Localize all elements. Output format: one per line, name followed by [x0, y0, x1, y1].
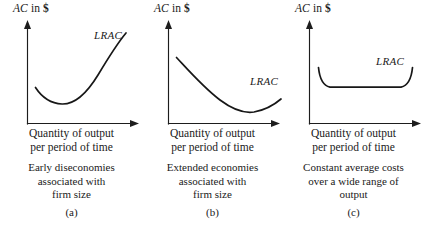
panel-letter-c: (c)	[283, 206, 424, 218]
caption-b-line1: Extended economies	[142, 161, 283, 175]
x-axis-label-b: Quantity of output per period of time	[142, 127, 283, 154]
x-axis-label-a: Quantity of output per period of time	[1, 127, 142, 154]
x-axis-arrowhead-b	[271, 120, 280, 127]
panel-letter-b: (b)	[142, 206, 283, 218]
lrac-label-b: LRAC	[250, 75, 278, 87]
caption-b-line3: firm size	[142, 188, 283, 202]
x-axis-label-b-line2: per period of time	[142, 141, 283, 155]
caption-a-line2: associated with	[1, 175, 142, 189]
caption-c-line1: Constant average costs	[283, 161, 424, 175]
x-axis-label-c-line2: per period of time	[283, 141, 424, 155]
panel-letter-a: (a)	[1, 206, 142, 218]
y-axis-arrowhead-b	[165, 20, 172, 29]
y-axis-arrowhead-c	[306, 20, 313, 29]
lrac-curve-c	[319, 68, 413, 88]
caption-a-line3: firm size	[1, 188, 142, 202]
x-axis-arrowhead-a	[130, 120, 139, 127]
lrac-curve-a	[36, 33, 127, 104]
panel-a: AC in $ LRAC Quantity of output per peri…	[1, 0, 142, 229]
plot-area-a	[1, 0, 142, 132]
caption-b-line2: associated with	[142, 175, 283, 189]
caption-c-line3: output	[283, 188, 424, 202]
lrac-label-a: LRAC	[94, 29, 122, 41]
x-axis-label-c-line1: Quantity of output	[283, 127, 424, 141]
y-axis-arrowhead-a	[24, 20, 31, 29]
x-axis-label-a-line1: Quantity of output	[1, 127, 142, 141]
caption-a: Early diseconomies associated with firm …	[1, 161, 142, 202]
x-axis-label-a-line2: per period of time	[1, 141, 142, 155]
x-axis-label-b-line1: Quantity of output	[142, 127, 283, 141]
x-axis-label-c: Quantity of output per period of time	[283, 127, 424, 154]
panel-b: AC in $ LRAC Quantity of output per peri…	[142, 0, 283, 229]
caption-c-line2: over a wide range of	[283, 175, 424, 189]
caption-b: Extended economies associated with firm …	[142, 161, 283, 202]
lrac-figure: AC in $ LRAC Quantity of output per peri…	[0, 0, 425, 229]
x-axis-arrowhead-c	[412, 120, 421, 127]
plot-area-b	[142, 0, 283, 132]
panel-c: AC in $ LRAC Quantity of output per peri…	[283, 0, 424, 229]
caption-a-line1: Early diseconomies	[1, 161, 142, 175]
lrac-label-c: LRAC	[376, 55, 404, 67]
caption-c: Constant average costs over a wide range…	[283, 161, 424, 202]
